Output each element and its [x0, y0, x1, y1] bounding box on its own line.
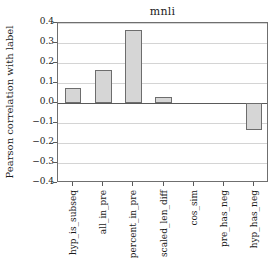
gridline	[58, 43, 267, 44]
gridline	[58, 63, 267, 64]
y-axis-tick-mark	[53, 82, 57, 83]
x-axis-tick-mark	[132, 182, 133, 186]
x-axis-tick-label-text: hyp_has_neg	[249, 190, 259, 248]
x-axis-tick-mark	[223, 182, 224, 186]
y-axis-tick-mark	[53, 22, 57, 23]
y-axis-tick-label: 0.4	[20, 17, 54, 26]
y-axis-tick-label: −0.2	[20, 137, 54, 146]
x-axis-tick-label: hyp_has_neg	[246, 190, 260, 264]
x-axis-tick-label-text: all_in_pre	[98, 190, 108, 234]
gridline	[58, 23, 267, 24]
x-axis-tick-label: scaled_len_diff	[156, 190, 170, 264]
plot-area	[57, 22, 268, 182]
y-axis-tick-mark	[53, 182, 57, 183]
y-axis-tick-label: 0.0	[20, 97, 54, 106]
x-axis-tick-label: hyp_is_subseq	[65, 190, 79, 264]
bar-scaled-len-diff	[155, 97, 172, 103]
gridline	[58, 143, 267, 144]
y-axis-tick-mark	[53, 62, 57, 63]
bar-percent-in-pre	[125, 30, 142, 103]
x-axis-tick-label-text: percent_in_pre	[128, 190, 138, 258]
y-axis-tick-label: 0.1	[20, 77, 54, 86]
gridline	[58, 163, 267, 164]
x-axis-tick-label-text: pre_has_neg	[219, 190, 229, 247]
y-axis-tick-label: −0.3	[20, 157, 54, 166]
gridline	[58, 83, 267, 84]
bar-chart-figure: mnli Pearson correlation with label 0.40…	[0, 0, 279, 267]
x-axis-tick-label-text: scaled_len_diff	[159, 190, 169, 257]
x-axis-tick-label: cos_sim	[186, 190, 200, 264]
bar-hyp-has-neg	[246, 103, 263, 130]
gridline	[58, 123, 267, 124]
x-axis-tick-mark	[102, 182, 103, 186]
y-axis-tick-labels: 0.40.30.20.10.0−0.1−0.2−0.3−0.4	[16, 22, 54, 182]
y-axis-tick-label: −0.4	[20, 177, 54, 186]
y-axis-label: Pearson correlation with label	[4, 26, 15, 179]
y-axis-tick-mark	[53, 142, 57, 143]
bar-hyp-is-subseq	[65, 88, 82, 103]
bar-all-in-pre	[95, 70, 112, 103]
chart-title: mnli	[57, 5, 268, 18]
y-axis-tick-mark	[53, 122, 57, 123]
y-axis-tick-label: 0.3	[20, 37, 54, 46]
x-axis-tick-label: pre_has_neg	[216, 190, 230, 264]
x-axis-tick-label: all_in_pre	[95, 190, 109, 264]
y-axis-tick-label: 0.2	[20, 57, 54, 66]
x-axis-tick-label: percent_in_pre	[125, 190, 139, 264]
x-axis-tick-mark	[72, 182, 73, 186]
x-axis-tick-mark	[163, 182, 164, 186]
x-axis-tick-mark	[253, 182, 254, 186]
x-axis-tick-mark	[193, 182, 194, 186]
x-axis-tick-label-text: cos_sim	[189, 190, 199, 226]
y-axis-tick-label: −0.1	[20, 117, 54, 126]
y-axis-tick-mark	[53, 102, 57, 103]
y-axis-tick-mark	[53, 42, 57, 43]
y-axis-tick-mark	[53, 162, 57, 163]
x-axis-tick-label-text: hyp_is_subseq	[68, 190, 78, 255]
